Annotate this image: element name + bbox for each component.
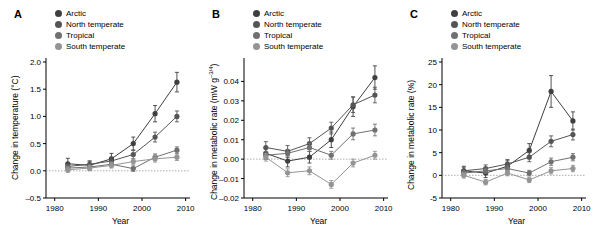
svg-text:2.0: 2.0 (30, 58, 42, 67)
svg-text:2010: 2010 (573, 204, 591, 213)
svg-text:0.0: 0.0 (30, 167, 42, 176)
svg-text:1990: 1990 (89, 204, 107, 213)
svg-text:10: 10 (428, 126, 437, 135)
svg-text:5: 5 (433, 149, 438, 158)
svg-text:2000: 2000 (331, 204, 349, 213)
svg-text:2010: 2010 (375, 204, 393, 213)
svg-text:0.01: 0.01 (223, 136, 239, 145)
svg-text:25: 25 (428, 58, 437, 67)
plot-area-c: -505101520251980199020002010 (396, 0, 594, 235)
svg-text:1980: 1980 (442, 204, 460, 213)
figure-container: A Arctic North temperate Tropical South … (0, 0, 594, 235)
svg-text:1980: 1980 (244, 204, 262, 213)
svg-text:1.5: 1.5 (30, 85, 42, 94)
svg-text:2000: 2000 (529, 204, 547, 213)
svg-text:1990: 1990 (287, 204, 305, 213)
svg-text:15: 15 (428, 103, 437, 112)
svg-text:1990: 1990 (485, 204, 503, 213)
svg-text:1980: 1980 (46, 204, 64, 213)
svg-text:–0.01: –0.01 (219, 175, 240, 184)
svg-text:0.5: 0.5 (30, 140, 42, 149)
svg-text:2000: 2000 (133, 204, 151, 213)
panel-b: B Arctic North temperate Tropical South … (198, 0, 396, 235)
svg-text:–0.02: –0.02 (219, 194, 240, 203)
svg-text:1.0: 1.0 (30, 112, 42, 121)
svg-text:0.04: 0.04 (223, 77, 239, 86)
svg-text:-5: -5 (430, 194, 438, 203)
plot-area-b: –0.02–0.010.000.010.020.030.041980199020… (198, 0, 396, 235)
svg-text:0.00: 0.00 (223, 155, 239, 164)
svg-text:–0.5: –0.5 (25, 194, 41, 203)
plot-area-a: –0.50.00.51.01.52.01980199020002010 (0, 0, 198, 235)
panel-c: C Arctic North temperate Tropical South … (396, 0, 594, 235)
panel-a: A Arctic North temperate Tropical South … (0, 0, 198, 235)
svg-text:0.02: 0.02 (223, 116, 239, 125)
svg-text:0.03: 0.03 (223, 97, 239, 106)
svg-text:0: 0 (433, 171, 438, 180)
svg-text:2010: 2010 (177, 204, 195, 213)
svg-text:20: 20 (428, 81, 437, 90)
